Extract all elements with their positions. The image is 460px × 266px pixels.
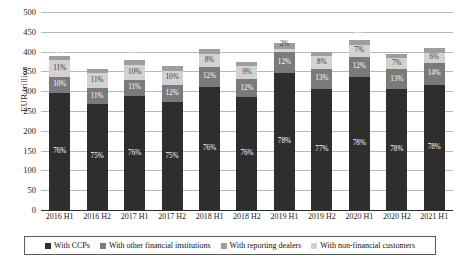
bar-segment[interactable]: 7% bbox=[349, 45, 370, 57]
bar-segment-label: 78% bbox=[353, 140, 366, 147]
bar-segment[interactable]: 12% bbox=[274, 52, 295, 73]
bar-column[interactable]: 3%7%12%78% bbox=[341, 12, 378, 210]
bar-segment[interactable]: 14% bbox=[424, 63, 445, 85]
bar-stack[interactable]: 3%7%12%78% bbox=[349, 40, 370, 210]
bar-segment[interactable]: 11% bbox=[49, 60, 70, 77]
bar-segment[interactable]: 12% bbox=[236, 79, 257, 97]
bar-column[interactable]: 3%9%12%76% bbox=[228, 12, 265, 210]
bar-segment-label: 75% bbox=[91, 153, 104, 160]
legend-item[interactable]: With non-financial customers bbox=[311, 241, 415, 250]
legend-item-label: With reporting dealers bbox=[230, 241, 302, 250]
bar-segment[interactable]: 11% bbox=[87, 88, 108, 104]
y-axis-tick-label: 50 bbox=[28, 185, 37, 195]
bar-segment-label: 3% bbox=[92, 61, 102, 68]
legend-item[interactable]: With reporting dealers bbox=[221, 241, 302, 250]
bar-column[interactable]: 3%11%10%76% bbox=[41, 12, 78, 210]
legend-item-label: With non-financial customers bbox=[320, 241, 415, 250]
bar-column[interactable]: 3%8%12%76% bbox=[191, 12, 228, 210]
bar-stack[interactable]: 3%9%12%76% bbox=[236, 62, 257, 211]
bar-segment[interactable]: 75% bbox=[162, 102, 183, 210]
bar-stack[interactable]: 3%11%10%76% bbox=[49, 56, 70, 210]
bar-segment[interactable]: 8% bbox=[199, 54, 220, 67]
bar-segment[interactable]: 76% bbox=[236, 97, 257, 210]
bar-column[interactable]: 3%7%13%78% bbox=[378, 12, 415, 210]
bar-segment-label: 2% bbox=[280, 41, 290, 48]
bar-segment-label: 8% bbox=[205, 57, 215, 64]
bar-segment-label: 76% bbox=[203, 145, 216, 152]
bar-segment[interactable]: 6% bbox=[424, 53, 445, 63]
bar-segment[interactable]: 12% bbox=[162, 85, 183, 102]
bars-layer: 3%11%10%76%3%11%11%75%3%10%11%76%3%10%12… bbox=[41, 12, 453, 210]
bar-segment-label: 3% bbox=[355, 33, 365, 40]
bar-segment-label: 10% bbox=[165, 74, 178, 81]
bar-segment-label: 10% bbox=[53, 81, 66, 88]
bar-column[interactable]: 3%10%11%76% bbox=[116, 12, 153, 210]
bar-segment[interactable]: 12% bbox=[199, 67, 220, 86]
bar-segment-label: 76% bbox=[53, 148, 66, 155]
bar-segment[interactable]: 75% bbox=[87, 104, 108, 210]
bar-column[interactable]: 3%8%13%77% bbox=[303, 12, 340, 210]
bar-segment[interactable]: 10% bbox=[162, 71, 183, 85]
bar-stack[interactable]: 3%10%12%75% bbox=[162, 66, 183, 210]
x-axis-tick-label: 2018 H2 bbox=[228, 212, 265, 221]
bar-segment[interactable]: 13% bbox=[386, 69, 407, 89]
bar-segment-label: 3% bbox=[167, 59, 177, 66]
bar-segment-label: 12% bbox=[165, 90, 178, 97]
bar-stack[interactable]: 3%6%14%78% bbox=[424, 48, 445, 210]
y-axis-tick-label: 100 bbox=[23, 165, 36, 175]
bar-segment[interactable]: 76% bbox=[49, 93, 70, 210]
bar-segment[interactable]: 77% bbox=[311, 89, 332, 210]
bar-stack[interactable]: 3%7%13%78% bbox=[386, 54, 407, 210]
legend-item[interactable]: With CCPs bbox=[45, 241, 90, 250]
bar-segment-label: 11% bbox=[91, 93, 104, 100]
bar-segment-label: 3% bbox=[55, 48, 65, 55]
bar-segment[interactable]: 78% bbox=[424, 85, 445, 210]
bar-segment[interactable]: 78% bbox=[349, 77, 370, 210]
bar-segment[interactable]: 10% bbox=[49, 77, 70, 92]
bar-segment-label: 11% bbox=[53, 65, 66, 72]
bar-segment-label: 13% bbox=[315, 75, 328, 82]
x-axis-tick-label: 2021 H1 bbox=[416, 212, 453, 221]
bar-column[interactable]: 3%2%12%78% bbox=[266, 12, 303, 210]
bar-segment-label: 12% bbox=[240, 85, 253, 92]
bar-segment[interactable]: 13% bbox=[311, 69, 332, 89]
legend-swatch-icon bbox=[221, 243, 227, 249]
bar-column[interactable]: 3%10%12%75% bbox=[153, 12, 190, 210]
bar-segment[interactable]: 76% bbox=[199, 87, 220, 210]
bar-segment[interactable]: 8% bbox=[311, 56, 332, 69]
bar-stack[interactable]: 3%8%13%77% bbox=[311, 52, 332, 210]
bar-column[interactable]: 3%11%11%75% bbox=[78, 12, 115, 210]
chart-legend: With CCPsWith other financial institutio… bbox=[24, 236, 436, 255]
y-axis-tick-label: 400 bbox=[23, 47, 36, 57]
gridline bbox=[41, 210, 453, 211]
bar-segment[interactable]: 78% bbox=[386, 89, 407, 210]
stacked-bar-chart: EUR trillion 050100150200250300350400450… bbox=[0, 0, 460, 266]
bar-segment-label: 9% bbox=[242, 69, 252, 76]
bar-stack[interactable]: 3%8%12%76% bbox=[199, 48, 220, 210]
bar-segment-label: 3% bbox=[392, 46, 402, 53]
bar-segment-label: 7% bbox=[355, 47, 365, 54]
bar-segment-label: 76% bbox=[240, 150, 253, 157]
bar-column[interactable]: 3%6%14%78% bbox=[416, 12, 453, 210]
bar-segment[interactable]: 78% bbox=[274, 73, 295, 210]
plot-area: 050100150200250300350400450500 3%11%10%7… bbox=[41, 12, 453, 210]
x-axis-tick-label: 2018 H1 bbox=[191, 212, 228, 221]
bar-stack[interactable]: 3%11%11%75% bbox=[87, 69, 108, 210]
bar-segment[interactable]: 9% bbox=[236, 66, 257, 79]
bar-segment[interactable]: 11% bbox=[124, 80, 145, 96]
bar-segment[interactable]: 12% bbox=[349, 57, 370, 77]
y-axis-tick-label: 450 bbox=[23, 27, 36, 37]
bar-stack[interactable]: 3%2%12%78% bbox=[274, 35, 295, 210]
y-axis-tick-label: 200 bbox=[23, 126, 36, 136]
bar-segment[interactable]: 7% bbox=[386, 58, 407, 69]
bar-segment[interactable]: 10% bbox=[124, 65, 145, 80]
legend-item[interactable]: With other financial institutions bbox=[100, 241, 211, 250]
bar-stack[interactable]: 3%10%11%76% bbox=[124, 60, 145, 210]
bar-segment[interactable]: 76% bbox=[124, 96, 145, 210]
bar-segment-label: 11% bbox=[128, 84, 141, 91]
bar-segment[interactable]: 11% bbox=[87, 73, 108, 89]
x-axis-tick-label: 2017 H1 bbox=[116, 212, 153, 221]
bar-segment-label: 78% bbox=[428, 144, 441, 151]
x-axis-tick-label: 2019 H2 bbox=[303, 212, 340, 221]
x-axis-labels: 2016 H12016 H22017 H12017 H22018 H12018 … bbox=[41, 212, 453, 221]
